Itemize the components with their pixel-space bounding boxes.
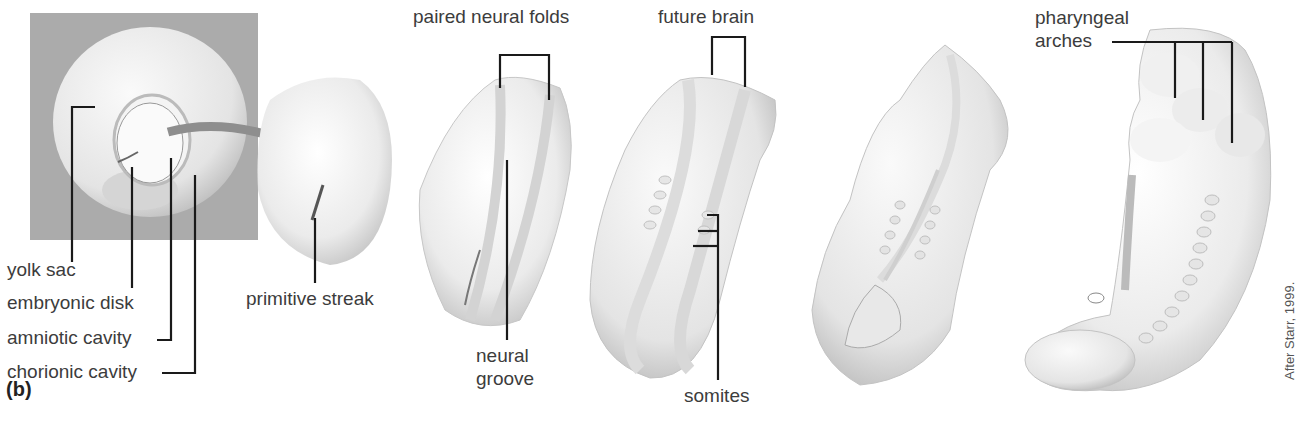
- label-paired-neural-folds: paired neural folds: [413, 6, 569, 28]
- label-pharyngeal-line2: arches: [1035, 30, 1092, 52]
- label-neural-groove-line1: neural: [476, 345, 529, 367]
- label-primitive-streak: primitive streak: [246, 288, 374, 310]
- label-yolk-sac: yolk sac: [7, 259, 76, 281]
- stage-future-brain: [590, 78, 776, 379]
- label-pharyngeal-line1: pharyngeal: [1035, 7, 1129, 29]
- label-somites: somites: [684, 385, 749, 407]
- stage-pharyngeal-arches: [1025, 28, 1271, 390]
- panel-letter: (b): [6, 378, 32, 401]
- label-future-brain: future brain: [658, 6, 754, 28]
- figure-credit: After Starr, 1999.: [1282, 282, 1297, 380]
- label-amniotic-cavity: amniotic cavity: [7, 327, 132, 349]
- stage-neural-tube: [812, 45, 1008, 385]
- label-embryonic-disk: embryonic disk: [7, 292, 134, 314]
- stage-neural-folds: [419, 77, 571, 325]
- stage-primitive-streak: [258, 78, 393, 266]
- label-neural-groove-line2: groove: [476, 368, 534, 390]
